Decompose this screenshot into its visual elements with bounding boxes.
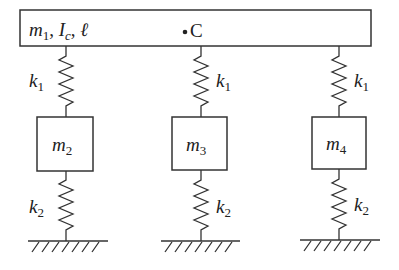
ground-left [28, 241, 108, 252]
ground-right [300, 240, 380, 251]
rigid-beam: m1, Ic, ℓ C [20, 10, 371, 46]
center-of-mass-dot [183, 30, 188, 35]
mass-m4: m4 [312, 117, 366, 169]
mass-m2: m2 [37, 117, 93, 171]
lower-spring-left: k2 [29, 171, 73, 241]
spring-label: k1 [29, 70, 44, 94]
upper-spring-left: k1 [29, 46, 73, 117]
spring-mass-diagram: m1, Ic, ℓ C k1 k1 k1 m2 m3 m4 [0, 0, 399, 270]
mass-m3: m3 [172, 117, 227, 170]
spring-label: k1 [354, 70, 369, 94]
center-of-mass-label: C [190, 20, 203, 41]
spring-label: k1 [216, 70, 231, 94]
ground-center [161, 241, 240, 252]
spring-label: k2 [216, 196, 231, 220]
spring-label: k2 [354, 194, 369, 218]
upper-spring-right: k1 [332, 46, 369, 117]
upper-spring-center: k1 [194, 46, 231, 117]
lower-spring-right: k2 [332, 169, 369, 240]
lower-spring-center: k2 [194, 170, 231, 241]
beam-label: m1, Ic, ℓ [29, 19, 88, 43]
spring-label: k2 [29, 196, 44, 220]
